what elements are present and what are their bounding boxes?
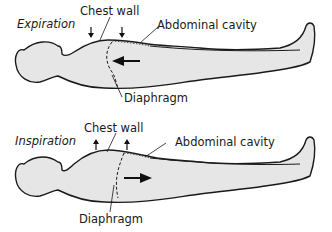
panel-title-expiration: Expiration	[17, 19, 75, 31]
breathing-diagram	[0, 0, 332, 232]
label-diaphragm-expiration: Diaphragm	[124, 93, 188, 105]
chest-arrow-up-icon	[124, 139, 130, 150]
label-abdominal-cavity-inspiration: Abdominal cavity	[175, 137, 275, 149]
body-outline-expiration	[15, 23, 314, 88]
label-abdominal-cavity-expiration: Abdominal cavity	[157, 20, 257, 32]
panel-title-inspiration: Inspiration	[15, 136, 76, 148]
label-chest-wall-expiration: Chest wall	[80, 6, 139, 18]
label-diaphragm-inspiration: Diaphragm	[79, 214, 143, 226]
chest-arrow-up-icon	[93, 139, 99, 150]
chest-arrow-down-icon	[119, 27, 125, 38]
label-chest-wall-inspiration: Chest wall	[84, 123, 143, 135]
chest-arrow-down-icon	[88, 27, 94, 38]
